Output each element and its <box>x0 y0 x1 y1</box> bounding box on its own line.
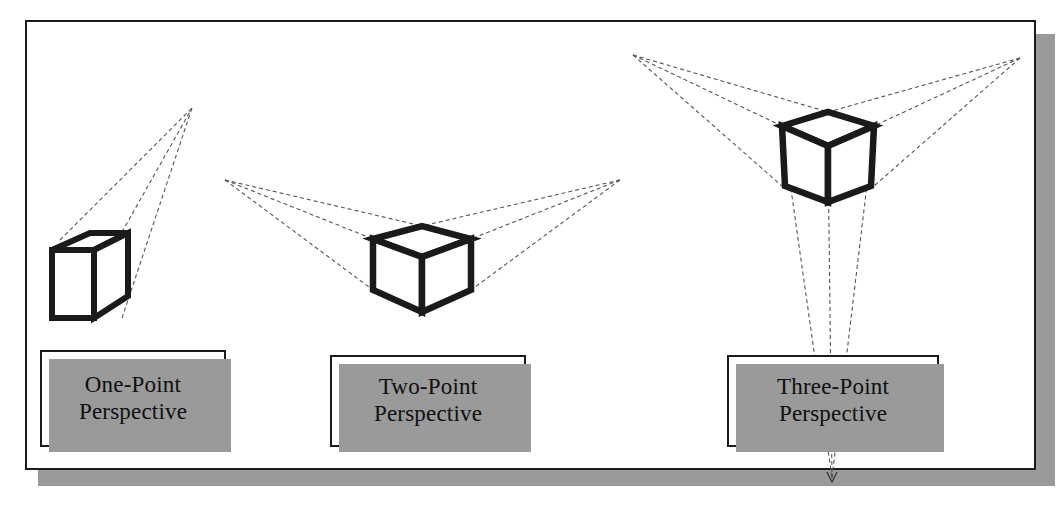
label-line-secondary: Perspective <box>79 399 187 426</box>
label-two-point-perspective[interactable]: Two-Point Perspective <box>330 355 526 447</box>
label-three-point-perspective[interactable]: Three-Point Perspective <box>727 355 939 447</box>
diagram-canvas: One-Point Perspective Two-Point Perspect… <box>0 0 1063 516</box>
label-line-primary: Two-Point <box>379 374 478 401</box>
label-line-secondary: Perspective <box>779 401 887 428</box>
label-line-secondary: Perspective <box>374 401 482 428</box>
label-one-point-perspective[interactable]: One-Point Perspective <box>40 350 226 447</box>
label-line-primary: Three-Point <box>777 374 889 401</box>
label-line-primary: One-Point <box>85 372 181 399</box>
